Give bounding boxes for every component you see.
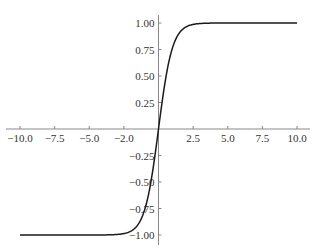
y-tick-label: 0.75 bbox=[135, 44, 155, 56]
y-tick-label: 0.25 bbox=[135, 97, 155, 109]
x-tick-label: 5.0 bbox=[221, 132, 235, 144]
x-tick-label: 7.5 bbox=[256, 132, 270, 144]
y-tick-label: −0.75 bbox=[129, 203, 155, 215]
x-tick-label: −10.0 bbox=[7, 132, 33, 144]
x-tick-label: 2.5 bbox=[186, 132, 200, 144]
y-tick-label: 1.00 bbox=[135, 17, 155, 29]
x-tick-label: 10.0 bbox=[287, 132, 307, 144]
y-tick-label: 0.50 bbox=[135, 70, 155, 82]
x-tick-label: −7.5 bbox=[45, 132, 65, 144]
y-tick-label: −0.25 bbox=[129, 150, 155, 162]
x-tick-label: −2.0 bbox=[114, 132, 134, 144]
x-tick-label: −5.0 bbox=[79, 132, 99, 144]
tanh-chart: −10.0−7.5−5.0−2.02.55.07.510.01.000.750.… bbox=[0, 0, 316, 251]
y-tick-label: −1.00 bbox=[129, 229, 155, 241]
